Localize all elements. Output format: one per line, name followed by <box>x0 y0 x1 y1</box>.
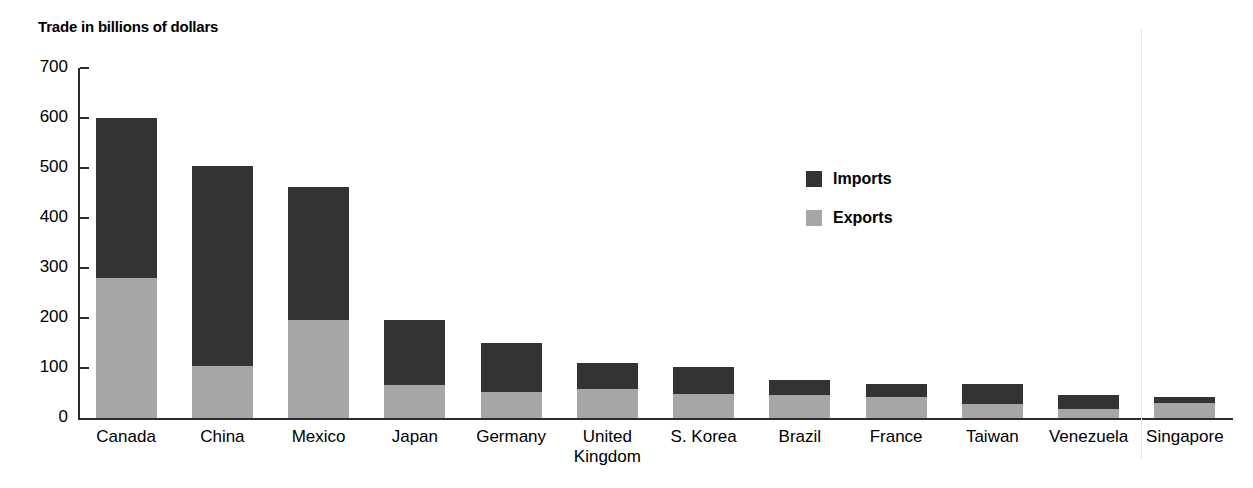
legend-swatch-icon <box>806 210 822 226</box>
bar-segment-imports <box>673 367 734 394</box>
bar-stack <box>769 380 830 418</box>
bar-segment-exports <box>866 397 927 418</box>
bar-stack <box>1154 397 1215 418</box>
legend-item: Imports <box>806 170 893 187</box>
y-axis-tick-label: 300 <box>20 257 68 277</box>
category-label: Mexico <box>271 427 367 447</box>
bar-stack <box>577 363 638 418</box>
category-label: Singapore <box>1137 427 1233 447</box>
bar-segment-imports <box>962 384 1023 404</box>
bar-stack <box>1058 395 1119 418</box>
bar-segment-exports <box>192 366 253 418</box>
y-axis-tick-label: 0 <box>20 407 68 427</box>
legend-label: Exports <box>833 209 893 227</box>
y-axis-tick <box>80 217 89 219</box>
y-axis-tick <box>80 267 89 269</box>
category-label: Germany <box>463 427 559 447</box>
y-axis-tick <box>80 317 89 319</box>
bar-segment-exports <box>673 394 734 418</box>
category-label: United Kingdom <box>559 427 655 467</box>
category-label: China <box>174 427 270 447</box>
bar-stack <box>96 118 157 418</box>
category-label: Taiwan <box>944 427 1040 447</box>
bar-segment-imports <box>577 363 638 389</box>
chart-title: Trade in billions of dollars <box>38 18 218 35</box>
page-edge-rule <box>1141 28 1142 460</box>
y-axis-tick <box>80 167 89 169</box>
y-axis-tick-label: 400 <box>20 207 68 227</box>
bar-segment-exports <box>384 385 445 418</box>
bar-segment-exports <box>1058 409 1119 418</box>
category-label: Venezuela <box>1041 427 1137 447</box>
y-axis-tick-label: 700 <box>20 57 68 77</box>
bar-segment-imports <box>384 320 445 385</box>
legend-item: Exports <box>806 209 893 226</box>
y-axis-tick <box>80 367 89 369</box>
bar-segment-imports <box>866 384 927 397</box>
chart-legend: ImportsExports <box>806 170 893 248</box>
y-axis-tick-label: 500 <box>20 157 68 177</box>
bar-segment-exports <box>288 320 349 418</box>
bar-stack <box>288 187 349 418</box>
category-label: S. Korea <box>656 427 752 447</box>
bar-stack <box>962 384 1023 418</box>
bar-segment-exports <box>1154 403 1215 418</box>
bar-segment-exports <box>96 278 157 418</box>
x-axis-line <box>78 418 1233 420</box>
bar-segment-imports <box>769 380 830 395</box>
legend-swatch-icon <box>806 171 822 187</box>
bar-segment-imports <box>96 118 157 278</box>
bar-stack <box>481 343 542 418</box>
trade-bar-chart: Trade in billions of dollars 01002003004… <box>0 0 1253 488</box>
category-label: Japan <box>367 427 463 447</box>
y-axis-tick-label: 200 <box>20 307 68 327</box>
bar-segment-exports <box>481 392 542 418</box>
bar-segment-imports <box>192 166 253 366</box>
y-axis-tick-label: 100 <box>20 357 68 377</box>
category-label: Canada <box>78 427 174 447</box>
category-label: France <box>848 427 944 447</box>
bar-stack <box>866 384 927 418</box>
y-axis-tick-label: 600 <box>20 107 68 127</box>
y-axis-tick <box>80 67 89 69</box>
bar-segment-imports <box>288 187 349 320</box>
bar-segment-exports <box>962 404 1023 418</box>
legend-label: Imports <box>833 170 892 188</box>
bar-segment-imports <box>481 343 542 392</box>
bar-stack <box>384 320 445 418</box>
bar-segment-exports <box>769 395 830 418</box>
y-axis-tick <box>80 117 89 119</box>
bar-stack <box>192 166 253 418</box>
category-label: Brazil <box>752 427 848 447</box>
bar-segment-exports <box>577 389 638 418</box>
bar-segment-imports <box>1058 395 1119 409</box>
bar-stack <box>673 367 734 418</box>
